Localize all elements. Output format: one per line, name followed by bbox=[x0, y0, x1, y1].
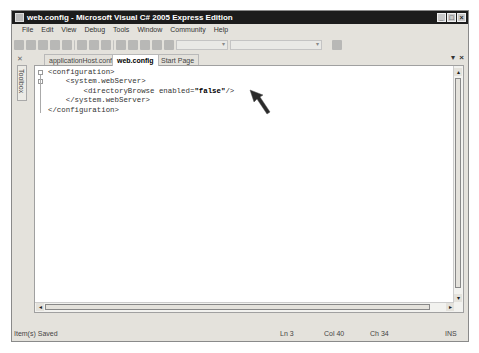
maximize-button[interactable]: □ bbox=[447, 13, 456, 22]
document-tabs: applicationHost.config web.config Start … bbox=[34, 53, 464, 65]
status-char: Ch 34 bbox=[370, 327, 389, 341]
toolbar-separator bbox=[74, 40, 75, 50]
window-title: web.config - Microsoft Visual C# 2005 Ex… bbox=[27, 11, 233, 24]
undo-icon[interactable] bbox=[116, 40, 126, 50]
horizontal-scroll-thumb[interactable] bbox=[45, 304, 430, 310]
toolbox-panel: ✕ Toolbox bbox=[13, 53, 31, 309]
status-insert-mode: INS bbox=[445, 327, 457, 341]
redo-icon[interactable] bbox=[128, 40, 138, 50]
outline-line bbox=[40, 75, 41, 113]
code-text[interactable]: <configuration> <system.webServer> <dire… bbox=[48, 68, 234, 115]
app-icon bbox=[15, 13, 24, 22]
menu-edit[interactable]: Edit bbox=[37, 24, 57, 36]
menu-help[interactable]: Help bbox=[210, 24, 232, 36]
new-project-icon[interactable] bbox=[14, 40, 24, 50]
vertical-scroll-thumb[interactable] bbox=[455, 78, 461, 288]
minimize-button[interactable]: _ bbox=[437, 13, 446, 22]
copy-icon[interactable] bbox=[89, 40, 99, 50]
attribute-value: "false" bbox=[194, 87, 225, 95]
code-line-2: <system.webServer> bbox=[48, 77, 234, 86]
status-message: Item(s) Saved bbox=[14, 327, 58, 341]
close-button[interactable]: × bbox=[457, 13, 466, 22]
status-column: Col 40 bbox=[324, 327, 344, 341]
status-bar: Item(s) Saved Ln 3 Col 40 Ch 34 INS bbox=[12, 327, 468, 341]
code-line-3: <directoryBrowse enabled="false"/> bbox=[48, 87, 234, 96]
pin-icon[interactable]: ✕ bbox=[17, 55, 23, 63]
toolbar-separator bbox=[113, 40, 114, 50]
paste-icon[interactable] bbox=[101, 40, 111, 50]
menu-window[interactable]: Window bbox=[133, 24, 166, 36]
solution-config-select[interactable] bbox=[176, 40, 228, 50]
menu-bar: File Edit View Debug Tools Window Commun… bbox=[12, 24, 468, 36]
cut-icon[interactable] bbox=[77, 40, 87, 50]
toolbox-label: Toolbox bbox=[18, 69, 25, 93]
standard-toolbar bbox=[14, 37, 466, 52]
code-line-5: </configuration> bbox=[48, 106, 234, 115]
outlining-gutter bbox=[35, 66, 45, 312]
app-window: web.config - Microsoft Visual C# 2005 Ex… bbox=[11, 10, 469, 342]
scroll-up-icon[interactable]: ▴ bbox=[454, 68, 462, 76]
start-debug-icon[interactable] bbox=[164, 40, 174, 50]
add-item-icon[interactable] bbox=[26, 40, 36, 50]
navigate-icon[interactable] bbox=[140, 40, 150, 50]
open-file-icon[interactable] bbox=[38, 40, 48, 50]
annotation-arrow-icon bbox=[248, 88, 272, 118]
find-combo[interactable] bbox=[230, 40, 322, 50]
status-line: Ln 3 bbox=[280, 327, 294, 341]
tab-list-dropdown-icon[interactable]: ▾ bbox=[451, 53, 455, 62]
menu-tools[interactable]: Tools bbox=[109, 24, 133, 36]
save-icon[interactable] bbox=[50, 40, 60, 50]
code-line-1: <configuration> bbox=[48, 68, 234, 77]
menu-file[interactable]: File bbox=[18, 24, 37, 36]
vertical-scrollbar[interactable]: ▴ ▾ bbox=[453, 66, 463, 312]
save-all-icon[interactable] bbox=[62, 40, 72, 50]
close-document-icon[interactable]: × bbox=[459, 53, 464, 62]
find-icon[interactable] bbox=[152, 40, 162, 50]
find-in-files-icon[interactable] bbox=[332, 40, 342, 50]
title-bar: web.config - Microsoft Visual C# 2005 Ex… bbox=[12, 11, 468, 24]
scroll-right-icon[interactable]: ▸ bbox=[446, 303, 454, 311]
toolbox-tab[interactable]: Toolbox bbox=[17, 65, 27, 101]
horizontal-scrollbar[interactable]: ◂ ▸ bbox=[35, 302, 454, 312]
scroll-down-icon[interactable]: ▾ bbox=[454, 294, 462, 302]
menu-view[interactable]: View bbox=[57, 24, 80, 36]
scroll-left-icon[interactable]: ◂ bbox=[36, 303, 44, 311]
tab-web-config[interactable]: web.config bbox=[112, 54, 159, 66]
menu-debug[interactable]: Debug bbox=[80, 24, 109, 36]
menu-community[interactable]: Community bbox=[166, 24, 209, 36]
code-line-4: </system.webServer> bbox=[48, 96, 234, 105]
